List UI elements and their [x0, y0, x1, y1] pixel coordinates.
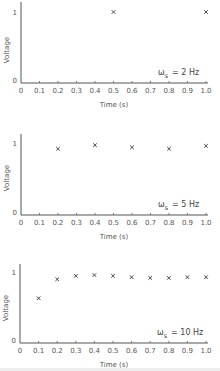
x-tick-label: 0.1 — [34, 219, 45, 227]
x-tick-label: 0.5 — [108, 219, 119, 227]
chart-svg: 1 0 Voltage 00.10.20.30.40.50.60.70.80.9… — [0, 245, 220, 371]
x-tick-label: 0.7 — [145, 347, 156, 355]
x-axis: 00.10.20.30.40.50.60.70.80.91.0 Time (s) — [19, 213, 212, 241]
x-tick-label: 0.7 — [145, 87, 156, 95]
x-axis-title: Time (s) — [99, 101, 129, 109]
x-marker-icon — [167, 276, 171, 280]
x-tick-label: 0.3 — [71, 219, 82, 227]
y-axis: 1 0 Voltage — [3, 134, 21, 217]
x-marker-icon — [130, 275, 134, 279]
x-tick-label: 1.0 — [200, 219, 211, 227]
chart-panel-5hz: 1 0 Voltage 00.10.20.30.40.50.60.70.80.9… — [0, 120, 220, 245]
y-tick-label-0: 0 — [13, 209, 17, 217]
x-marker-icon — [112, 10, 116, 14]
x-tick-label: 0.8 — [163, 87, 174, 95]
x-tick-label: 0.2 — [52, 219, 63, 227]
x-tick-label: 0.9 — [182, 219, 193, 227]
x-marker-icon — [204, 10, 208, 14]
x-axis: 00.10.20.30.40.50.60.70.80.91.0 Time (s) — [18, 341, 212, 369]
x-tick-label: 0.5 — [107, 347, 118, 355]
x-tick-label: 0.1 — [33, 347, 44, 355]
x-tick-label: 0 — [18, 347, 22, 355]
x-marker-icon — [204, 275, 208, 279]
x-tick-label: 0.9 — [182, 347, 193, 355]
x-tick-label: 0.9 — [182, 87, 193, 95]
x-tick-label: 0.6 — [126, 219, 138, 227]
y-axis-title: Voltage — [2, 295, 10, 321]
x-marker-icon — [93, 273, 97, 277]
x-tick-label: 0.8 — [163, 219, 174, 227]
x-marker-icon — [55, 278, 59, 282]
x-tick-label: 0.2 — [52, 87, 63, 95]
sampling-rate-annotation: ωs= 10 Hz — [157, 328, 203, 340]
x-marker-icon — [74, 274, 78, 278]
x-marker-icon — [204, 144, 208, 148]
data-points — [37, 273, 208, 300]
x-tick-label: 0.6 — [126, 347, 138, 355]
x-marker-icon — [56, 147, 60, 151]
x-tick-label: 0.4 — [89, 219, 101, 227]
x-marker-icon — [130, 146, 134, 150]
y-tick-label-0: 0 — [12, 337, 16, 345]
y-axis-title: Voltage — [3, 165, 11, 191]
x-marker-icon — [37, 296, 41, 300]
chart-panel-2hz: 1 0 Voltage 00.10.20.30.40.50.60.70.80.9… — [0, 0, 220, 120]
x-tick-label: 0.4 — [89, 87, 101, 95]
x-marker-icon — [111, 274, 115, 278]
y-tick-label-1: 1 — [13, 9, 17, 17]
x-tick-label: 0.3 — [71, 87, 82, 95]
x-tick-label: 0.3 — [70, 347, 81, 355]
x-tick-label: 0.4 — [89, 347, 101, 355]
x-tick-label: 0.1 — [34, 87, 45, 95]
data-points — [112, 10, 208, 14]
x-marker-icon — [93, 143, 97, 147]
y-tick-label-0: 0 — [13, 77, 17, 85]
sampling-rate-annotation: ωs= 5 Hz — [158, 200, 199, 212]
chart-svg: 1 0 Voltage 00.10.20.30.40.50.60.70.80.9… — [0, 120, 220, 245]
x-marker-icon — [186, 275, 190, 279]
x-tick-label: 0.8 — [163, 347, 174, 355]
x-tick-label: 0 — [19, 87, 23, 95]
x-tick-label: 0.7 — [145, 219, 156, 227]
x-tick-label: 0 — [19, 219, 23, 227]
x-marker-icon — [148, 276, 152, 280]
y-tick-label-1: 1 — [13, 140, 17, 148]
sampling-rate-annotation: ωs= 2 Hz — [158, 68, 199, 80]
y-axis: 1 0 Voltage — [3, 2, 21, 85]
y-axis-title: Voltage — [3, 37, 11, 63]
x-axis-title: Time (s) — [99, 233, 129, 241]
x-tick-label: 0.5 — [108, 87, 119, 95]
x-tick-label: 1.0 — [200, 87, 211, 95]
x-axis: 00.10.20.30.40.50.60.70.80.91.0 Time (s) — [19, 81, 212, 109]
chart-svg: 1 0 Voltage 00.10.20.30.40.50.60.70.80.9… — [0, 0, 220, 120]
x-tick-label: 0.2 — [52, 347, 63, 355]
x-marker-icon — [167, 147, 171, 151]
y-axis: 1 0 Voltage — [2, 264, 20, 345]
x-tick-label: 0.6 — [126, 87, 138, 95]
x-tick-label: 1.0 — [200, 347, 211, 355]
data-points — [56, 143, 208, 150]
y-tick-label-1: 1 — [12, 269, 16, 277]
chart-panel-10hz: 1 0 Voltage 00.10.20.30.40.50.60.70.80.9… — [0, 245, 220, 371]
